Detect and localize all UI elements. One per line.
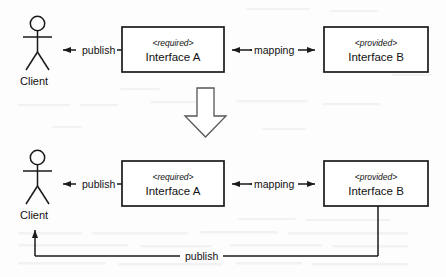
name-interface-b-top: Interface B <box>324 51 428 63</box>
actor-label-client-bottom: Client <box>20 210 48 221</box>
stereotype-required-top: <required> <box>122 38 224 48</box>
actor-label-client-top: Client <box>20 76 48 87</box>
stereotype-provided-bottom: <provided> <box>324 172 428 182</box>
edge-label-mapping-top: mapping <box>252 45 296 56</box>
stereotype-required-bottom: <required> <box>122 172 224 182</box>
actor-client-bottom <box>23 150 52 204</box>
stereotype-provided-top: <provided> <box>324 38 428 48</box>
name-interface-b-bottom: Interface B <box>324 185 428 197</box>
name-interface-a-bottom: Interface A <box>122 185 224 197</box>
actor-client-top <box>23 16 52 70</box>
edge-label-publish-routed: publish <box>183 251 220 262</box>
edge-label-publish-top: publish <box>80 45 117 56</box>
block-arrow-down-icon <box>185 88 226 137</box>
edge-label-publish-bottom: publish <box>80 179 117 190</box>
box-interface-b-top-text: <provided> Interface B <box>324 38 428 63</box>
box-interface-a-bottom-text: <required> Interface A <box>122 172 224 197</box>
diagram-canvas: Client publish <required> Interface A ma… <box>0 0 446 277</box>
edge-publish-routed <box>35 206 378 256</box>
edge-label-mapping-bottom: mapping <box>252 179 296 190</box>
name-interface-a-top: Interface A <box>122 51 224 63</box>
box-interface-b-bottom-text: <provided> Interface B <box>324 172 428 197</box>
box-interface-a-top-text: <required> Interface A <box>122 38 224 63</box>
